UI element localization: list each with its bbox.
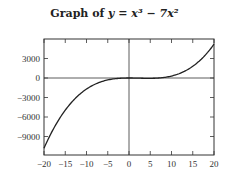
x-tick-label: −15 — [58, 159, 73, 169]
y-tick-label: −3000 — [17, 93, 41, 103]
y-tick-label: 3000 — [22, 54, 41, 64]
x-tick-label: 15 — [188, 159, 198, 169]
x-tick-label: 10 — [167, 159, 177, 169]
x-tick-label: −5 — [103, 159, 113, 169]
x-tick-label: 0 — [127, 159, 132, 169]
y-tick-label: −9000 — [17, 132, 41, 142]
x-tick-label: 5 — [148, 159, 153, 169]
y-tick-label: 0 — [36, 73, 41, 83]
plot-area: −20−15−10−50510152030000−3000−6000−9000 — [0, 0, 229, 179]
x-tick-label: −20 — [37, 159, 52, 169]
x-tick-label: 20 — [210, 159, 220, 169]
x-tick-label: −10 — [79, 159, 94, 169]
y-tick-label: −6000 — [17, 112, 41, 122]
